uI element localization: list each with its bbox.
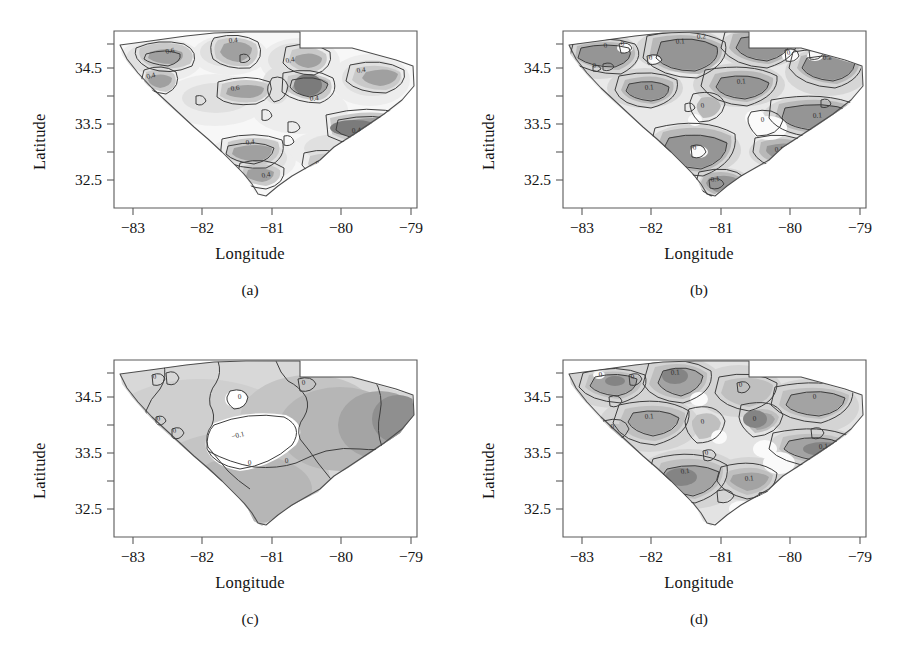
svg-text:0.1: 0.1 [374, 460, 384, 469]
panel-d-ylabel: Latitude [479, 442, 499, 499]
panel-c-plot: 0 0 0 −0.1 0 0 0.1 0 0 34. [0, 329, 448, 569]
panel-d-ytick-2: 32.5 [524, 500, 551, 517]
panel-b-ytick-0: 34.5 [524, 59, 551, 76]
panel-c-xtick-2: −81 [260, 548, 284, 565]
panel-c-xtick-4: −79 [399, 548, 423, 565]
svg-text:0.2: 0.2 [697, 32, 707, 41]
panel-c-y-axis: 34.5 33.5 32.5 [75, 373, 114, 517]
panel-d-xtick-2: −81 [709, 548, 733, 565]
panel-b: 0 0 0.1 0.2 0.1 0.2 0.1 0.1 0.1 0 0.1 0.… [449, 0, 897, 328]
panel-c-caption-text: (c) [189, 610, 258, 628]
svg-text:0.1: 0.1 [710, 175, 720, 184]
svg-text:0.4: 0.4 [352, 126, 362, 135]
svg-text:0.4: 0.4 [228, 36, 238, 45]
panel-a: 0.6 0.4 0.4 0.6 0.4 0.4 0.4 0.4 0.4 0.4 … [0, 0, 448, 328]
svg-text:0.1: 0.1 [744, 474, 754, 483]
panel-c-xlabel: Longitude [0, 573, 448, 593]
svg-text:0.4: 0.4 [245, 138, 255, 147]
panel-a-xtick-0: −83 [121, 219, 145, 236]
svg-text:0.1: 0.1 [819, 442, 829, 451]
svg-text:0.4: 0.4 [379, 139, 389, 148]
panel-c-xtick-0: −83 [121, 548, 145, 565]
svg-text:0.4: 0.4 [315, 159, 325, 168]
panel-d-ytick-0: 34.5 [524, 388, 551, 405]
panel-d-xtick-3: −80 [778, 548, 802, 565]
panel-c-caption: (c) [0, 610, 448, 628]
panel-a-caption: (a) [0, 281, 448, 299]
svg-text:0.1: 0.1 [670, 368, 680, 377]
panel-d-plot: 0 0 0.1 0.1 0 0 0.1 0.1 0.1 0 0 0 0 0 [449, 329, 897, 569]
svg-text:0.4: 0.4 [261, 170, 272, 180]
svg-text:0.1: 0.1 [754, 33, 764, 42]
panel-c-ytick-0: 34.5 [75, 388, 102, 405]
panel-c: 0 0 0 −0.1 0 0 0.1 0 0 34. [0, 329, 448, 657]
panel-d-x-axis: −83 −82 −81 −80 −79 [570, 537, 872, 565]
svg-text:0.6: 0.6 [230, 84, 240, 93]
panel-c-xtick-1: −82 [190, 548, 214, 565]
panel-b-xlabel: Longitude [449, 244, 897, 264]
panel-b-xtick-1: −82 [639, 219, 663, 236]
panel-d: 0 0 0.1 0.1 0 0 0.1 0.1 0.1 0 0 0 0 0 [449, 329, 897, 657]
svg-text:0.1: 0.1 [680, 467, 690, 476]
panel-b-xlabel-text: Longitude [612, 244, 734, 264]
panel-b-x-axis: −83 −82 −81 −80 −79 [570, 208, 872, 236]
svg-text:0.1: 0.1 [828, 135, 838, 144]
panel-b-ylabel: Latitude [479, 113, 499, 170]
panel-a-x-axis: −83 −82 −81 −80 −79 [121, 208, 423, 236]
panel-a-xlabel: Longitude [0, 244, 448, 264]
panel-a-xtick-2: −81 [260, 219, 284, 236]
svg-text:0.4: 0.4 [285, 55, 296, 65]
panel-d-xlabel-text: Longitude [612, 573, 734, 593]
panel-c-ytick-2: 32.5 [75, 500, 102, 517]
panel-d-caption: (d) [449, 610, 897, 628]
panel-d-ytick-1: 33.5 [524, 444, 551, 461]
svg-text:0: 0 [788, 473, 793, 481]
svg-text:0.1: 0.1 [774, 145, 784, 154]
panel-b-xtick-4: −79 [848, 219, 872, 236]
svg-text:0.1: 0.1 [644, 83, 654, 92]
svg-text:0.1: 0.1 [675, 37, 685, 46]
panel-c-xtick-3: −80 [329, 548, 353, 565]
figure-multi-panel-contour-maps: 0.6 0.4 0.4 0.6 0.4 0.4 0.4 0.4 0.4 0.4 … [0, 0, 897, 657]
panel-d-y-axis: 34.5 33.5 32.5 [524, 373, 563, 517]
panel-d-xtick-4: −79 [848, 548, 872, 565]
panel-b-xtick-3: −80 [778, 219, 802, 236]
panel-a-xtick-3: −80 [329, 219, 353, 236]
panel-a-xtick-4: −79 [399, 219, 423, 236]
panel-a-ylabel: Latitude [30, 113, 50, 170]
svg-text:0.1: 0.1 [813, 111, 823, 120]
panel-a-xtick-1: −82 [190, 219, 214, 236]
panel-a-ytick-1: 33.5 [75, 115, 102, 132]
panel-c-xlabel-text: Longitude [163, 573, 285, 593]
panel-b-caption-text: (b) [638, 281, 708, 299]
panel-d-xtick-1: −82 [639, 548, 663, 565]
panel-c-ylabel: Latitude [30, 442, 50, 499]
svg-text:0.4: 0.4 [309, 94, 319, 103]
panel-d-xtick-0: −83 [570, 548, 594, 565]
panel-b-xtick-2: −81 [709, 219, 733, 236]
panel-c-ytick-1: 33.5 [75, 444, 102, 461]
panel-a-caption-text: (a) [189, 281, 258, 299]
panel-d-caption-text: (d) [638, 610, 708, 628]
panel-b-y-axis: 34.5 33.5 32.5 [524, 44, 563, 188]
panel-a-ytick-2: 32.5 [75, 171, 102, 188]
svg-text:0.4: 0.4 [356, 66, 366, 75]
svg-text:0.1: 0.1 [644, 412, 654, 421]
panel-d-xlabel: Longitude [449, 573, 897, 593]
panel-c-x-axis: −83 −82 −81 −80 −79 [121, 537, 423, 565]
panel-b-ytick-2: 32.5 [524, 171, 551, 188]
panel-c-shading [90, 357, 424, 541]
panel-a-plot: 0.6 0.4 0.4 0.6 0.4 0.4 0.4 0.4 0.4 0.4 … [0, 0, 448, 240]
svg-text:0.1: 0.1 [736, 77, 746, 86]
panel-a-xlabel-text: Longitude [163, 244, 285, 264]
panel-b-xtick-0: −83 [570, 219, 594, 236]
panel-a-ytick-0: 34.5 [75, 59, 102, 76]
panel-a-y-axis: 34.5 33.5 32.5 [75, 44, 114, 188]
panel-b-ytick-1: 33.5 [524, 115, 551, 132]
panel-b-plot: 0 0 0.1 0.2 0.1 0.2 0.1 0.1 0.1 0 0.1 0.… [449, 0, 897, 240]
panel-b-caption: (b) [449, 281, 897, 299]
